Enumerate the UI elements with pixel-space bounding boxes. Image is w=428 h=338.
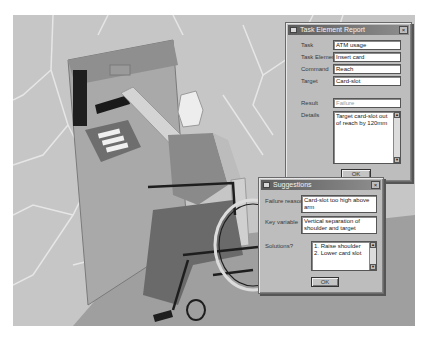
details-text: Target card-slot out of reach by 120mm <box>336 113 387 126</box>
scroll-down-icon[interactable]: ▼ <box>370 264 376 270</box>
command-field[interactable]: Reach <box>333 64 401 74</box>
task-element-report-dialog[interactable]: Task Element Report × Task ATM usage Tas… <box>285 22 412 182</box>
close-icon[interactable]: × <box>371 181 380 189</box>
close-icon[interactable]: × <box>399 26 408 34</box>
app-icon <box>263 182 270 188</box>
failure-reason-label: Failure reason <box>265 198 303 204</box>
task-field[interactable]: ATM usage <box>333 40 401 50</box>
details-label: Details <box>301 112 319 118</box>
command-label: Command <box>301 66 329 72</box>
task-report-titlebar[interactable]: Task Element Report × <box>288 25 409 35</box>
app-icon <box>290 27 297 33</box>
solution-item[interactable]: 1. Raise shoulder <box>314 243 367 250</box>
key-variable-field[interactable]: Vertical separation of shoulder and targ… <box>301 216 377 234</box>
solutions-list[interactable]: 1. Raise shoulder 2. Lower card slot ▲ ▼ <box>311 241 377 271</box>
scroll-up-icon[interactable]: ▲ <box>394 112 400 118</box>
result-label: Result <box>301 100 318 106</box>
task-label: Task <box>301 42 313 48</box>
atm-screen-slot <box>73 70 87 126</box>
solutions-scrollbar[interactable]: ▲ ▼ <box>369 242 376 270</box>
task-element-label: Task Element <box>301 54 337 60</box>
target-label: Target <box>301 78 318 84</box>
suggestions-title: Suggestions <box>273 181 312 188</box>
scroll-up-icon[interactable]: ▲ <box>370 242 376 248</box>
target-field[interactable]: Card-slot <box>333 76 401 86</box>
task-element-field[interactable]: Insert card <box>333 52 401 62</box>
failure-reason-field[interactable]: Card-slot too high above arm <box>301 195 377 213</box>
task-report-title: Task Element Report <box>300 26 365 33</box>
details-scrollbar[interactable]: ▲ ▼ <box>393 112 400 163</box>
solutions-label: Solutions? <box>265 243 293 249</box>
key-variable-label: Key variable <box>265 219 298 225</box>
suggestions-ok-button[interactable]: OK <box>311 277 339 287</box>
suggestions-titlebar[interactable]: Suggestions × <box>261 180 381 190</box>
scroll-down-icon[interactable]: ▼ <box>394 157 400 163</box>
suggestions-dialog[interactable]: Suggestions × Failure reason Card-slot t… <box>258 177 384 294</box>
result-field[interactable]: Failure <box>333 98 401 108</box>
solution-item[interactable]: 2. Lower card slot <box>314 250 367 257</box>
details-textarea[interactable]: Target card-slot out of reach by 120mm ▲… <box>333 111 401 164</box>
atm-label-plate <box>110 65 130 75</box>
